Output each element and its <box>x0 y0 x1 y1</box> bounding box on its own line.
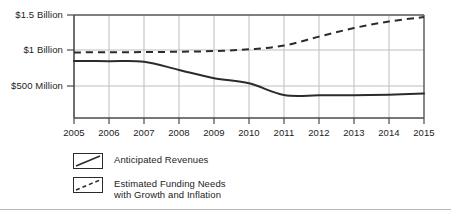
legend-item-estimated-funding-needs: Estimated Funding Needs with Growth and … <box>73 177 226 200</box>
x-axis-label-2008: 2008 <box>159 128 199 138</box>
legend-swatch-solid-line-icon <box>73 153 103 169</box>
legend-label-estimated-funding-needs: Estimated Funding Needs with Growth and … <box>114 177 226 200</box>
y-axis-ticks <box>67 15 74 86</box>
x-axis-label-2015: 2015 <box>404 128 444 138</box>
x-axis-ticks <box>74 118 424 124</box>
legend-label-anticipated-revenues: Anticipated Revenues <box>114 153 208 165</box>
legend-item-anticipated-revenues: Anticipated Revenues <box>73 153 208 169</box>
x-axis-label-2014: 2014 <box>369 128 409 138</box>
footer-divider <box>0 209 451 210</box>
y-axis-label-500-million: $500 Million <box>0 81 63 91</box>
y-axis-label-1-billion: $1 Billion <box>0 45 63 55</box>
x-axis-label-2006: 2006 <box>89 128 129 138</box>
x-axis-label-2011: 2011 <box>264 128 304 138</box>
x-axis-label-2007: 2007 <box>124 128 164 138</box>
x-axis-label-2010: 2010 <box>229 128 269 138</box>
funding-gap-chart-figure: $1.5 Billion $1 Billion $500 Million 200… <box>0 0 451 219</box>
x-axis-label-2005: 2005 <box>54 128 94 138</box>
y-axis-label-1-5-billion: $1.5 Billion <box>0 10 63 20</box>
legend-swatch-dashed-line-icon <box>73 177 103 193</box>
x-axis-label-2009: 2009 <box>194 128 234 138</box>
x-axis-label-2013: 2013 <box>334 128 374 138</box>
vertical-gridlines <box>109 15 389 118</box>
x-axis-label-2012: 2012 <box>299 128 339 138</box>
